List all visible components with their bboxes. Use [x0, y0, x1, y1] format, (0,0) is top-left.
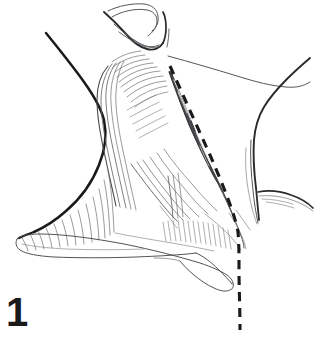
figure-background	[0, 0, 323, 348]
figure-container: 1	[0, 0, 323, 348]
figure-number-label: 1	[6, 292, 28, 332]
anatomy-illustration	[0, 0, 323, 348]
